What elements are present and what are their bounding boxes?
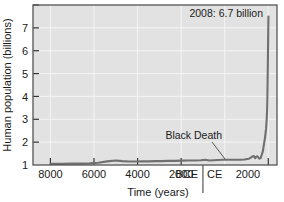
population-chart-figure: 1 2 3 4 5 6 7 8000 6000 4000 2000 BCE CE…	[0, 0, 284, 202]
x-axis-title: Time (years)	[127, 186, 188, 198]
x-tick-label-bce: BCE	[175, 168, 198, 180]
x-tick-label-6000bce: 6000	[82, 168, 106, 180]
population-2008-annotation-label: 2008: 6.7 billion	[189, 7, 263, 19]
y-tick-label-6: 6	[22, 45, 28, 57]
y-tick-label-1: 1	[22, 159, 28, 171]
y-axis-title: Human population (billions)	[1, 18, 13, 151]
chart-canvas: 1 2 3 4 5 6 7 8000 6000 4000 2000 BCE CE…	[0, 0, 284, 202]
y-tick-label-4: 4	[22, 91, 28, 103]
x-tick-label-8000bce: 8000	[38, 168, 62, 180]
y-tick-label-5: 5	[22, 68, 28, 80]
y-tick-label-7: 7	[22, 22, 28, 34]
x-tick-label-ce: CE	[207, 168, 222, 180]
x-tick-label-4000bce: 4000	[125, 168, 149, 180]
x-tick-label-2000ce: 2000	[236, 168, 260, 180]
plot-background	[33, 5, 277, 165]
y-tick-label-2: 2	[22, 136, 28, 148]
black-death-annotation-label: Black Death	[165, 129, 222, 141]
y-tick-label-3: 3	[22, 113, 28, 125]
